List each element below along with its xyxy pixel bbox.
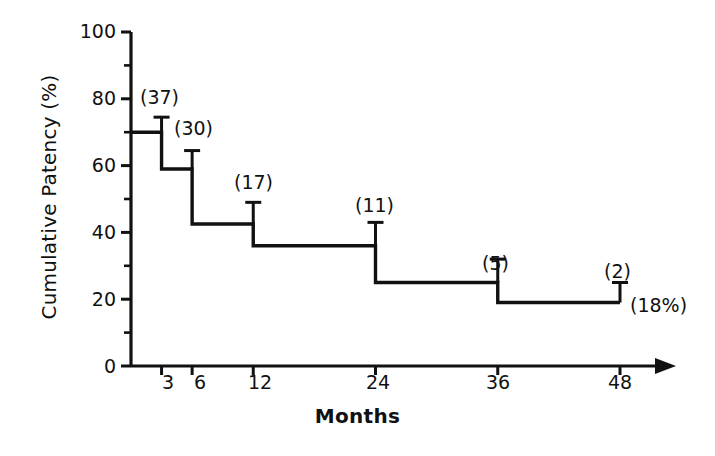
at-risk-label-12: (17) [234,173,273,192]
at-risk-label-24: (11) [355,196,394,215]
x-tick-label-6: 6 [170,373,230,392]
at-risk-label-48: (2) [604,262,631,281]
y-tick-label-60: 60 [56,156,116,175]
y-tick-label-40: 40 [56,223,116,242]
x-axis-label: Months [0,404,715,428]
x-axis-arrow-icon [655,358,676,374]
survival-step-curve [131,132,620,302]
final-percent-annotation: (18%) [630,296,687,315]
x-tick-label-12: 12 [230,373,290,392]
at-risk-label-36: (5) [482,254,509,273]
at-risk-label-3: (37) [140,88,179,107]
kaplan-meier-chart: Cumulative Patency (%) Months 100 80 60 … [0,0,715,456]
at-risk-label-6: (30) [174,119,213,138]
y-tick-label-100: 100 [56,22,116,41]
x-tick-label-48: 48 [590,373,650,392]
y-tick-label-80: 80 [56,89,116,108]
y-tick-label-0: 0 [56,357,116,376]
x-tick-label-36: 36 [468,373,528,392]
x-tick-label-24: 24 [348,373,408,392]
y-tick-label-20: 20 [56,290,116,309]
